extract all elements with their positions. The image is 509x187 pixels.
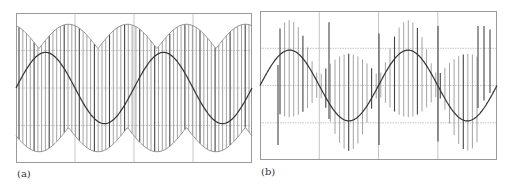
panel-b [260,11,497,160]
plot-b [260,11,497,160]
panel-label-b: (b) [261,166,275,177]
panel-a [16,13,252,163]
panel-label-a: (a) [17,168,31,179]
plot-a [16,13,252,163]
